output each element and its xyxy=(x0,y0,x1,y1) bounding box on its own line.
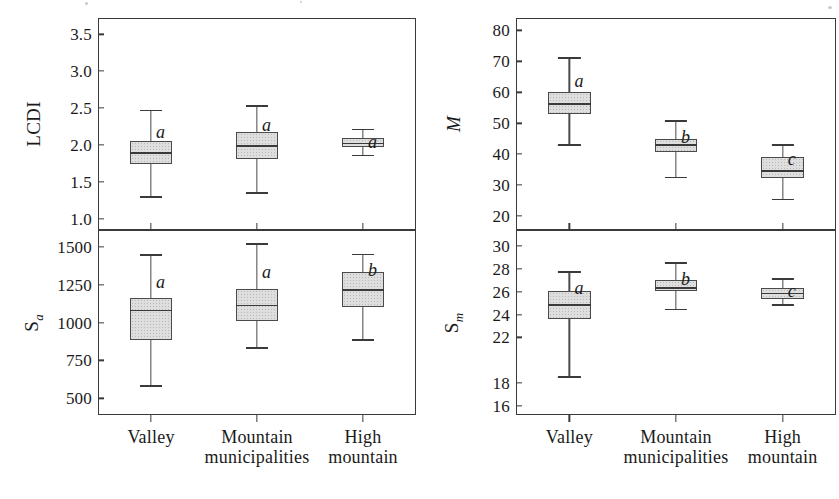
y-tick-mark-sm-4 xyxy=(516,337,522,338)
cap-lower-sa-0 xyxy=(140,385,162,387)
cap-upper-sm-1 xyxy=(665,262,687,264)
significance-letter-sa-0: a xyxy=(156,273,165,291)
x-axis-label-sa-2: Highmountain xyxy=(328,427,398,467)
panel-sa: Sa 150012501000750500aabValleyMountainmu… xyxy=(0,0,420,499)
panel-sm: Sm 30282624221816abcValleyMountainmunici… xyxy=(420,0,839,499)
axis-label-sa-main: S xyxy=(21,320,42,331)
median-line-sa-1 xyxy=(236,305,278,307)
y-tick-label-sm-5: 18 xyxy=(493,375,510,392)
x-axis-label-sm-2: Highmountain xyxy=(748,427,818,467)
whisker-lower-sa-2 xyxy=(362,307,363,339)
median-line-sm-2 xyxy=(761,293,804,295)
y-tick-label-sm-3: 24 xyxy=(493,306,510,323)
boxplot-sm-2: c xyxy=(761,0,804,499)
x-axis-label-line1-sm-0: Valley xyxy=(546,427,593,447)
x-axis-label-line1-sa-0: Valley xyxy=(127,427,174,447)
axis-label-sm-main: S xyxy=(441,322,462,333)
y-tick-mark-sa-3 xyxy=(98,360,104,361)
cap-upper-sa-0 xyxy=(140,254,162,256)
box-iqr-sa-0 xyxy=(130,298,172,340)
x-tick-mark-sa-1 xyxy=(256,415,257,422)
x-axis-label-line1-sm-1: Mountain xyxy=(624,427,729,447)
median-line-sa-2 xyxy=(342,289,384,291)
y-tick-label-sa-2: 1000 xyxy=(57,314,92,331)
y-tick-label-sm-1: 28 xyxy=(493,260,510,277)
median-line-sa-0 xyxy=(130,310,172,312)
x-axis-label-line1-sa-2: High xyxy=(328,427,398,447)
y-tick-mark-sm-3 xyxy=(516,314,522,315)
axis-label-sm: Sm xyxy=(441,312,467,332)
x-axis-label-line2-sm-2: mountain xyxy=(748,447,818,467)
x-tick-mark-sa-0 xyxy=(150,415,151,422)
cap-upper-sm-2 xyxy=(772,278,794,280)
whisker-upper-sm-0 xyxy=(569,271,570,290)
x-axis-label-line2-sa-1: municipalities xyxy=(205,447,310,467)
x-tick-mark-sm-1 xyxy=(675,415,676,422)
cap-lower-sm-1 xyxy=(665,309,687,311)
y-tick-label-sa-0: 1500 xyxy=(57,238,92,255)
left-column: LCDI 3.53.02.52.01.51.0aaa Sa 1500125010… xyxy=(0,0,420,499)
scan-artifact-1 xyxy=(828,6,832,9)
x-axis-label-sa-1: Mountainmunicipalities xyxy=(205,427,310,467)
x-tick-mark-sm-0 xyxy=(569,415,570,422)
whisker-upper-sa-0 xyxy=(150,254,151,298)
cap-upper-sa-1 xyxy=(246,243,268,245)
whisker-lower-sm-0 xyxy=(569,319,570,376)
boxplot-sm-1: b xyxy=(655,0,698,499)
y-tick-mark-sm-0 xyxy=(516,245,522,246)
x-tick-mark-sm-2 xyxy=(782,415,783,422)
axis-label-sm-sub: m xyxy=(451,312,466,321)
x-axis-label-sm-1: Mountainmunicipalities xyxy=(624,427,729,467)
boxplot-sa-0: a xyxy=(130,0,172,499)
box-iqr-sm-1 xyxy=(655,280,698,290)
y-tick-label-sm-6: 16 xyxy=(493,397,510,414)
y-tick-label-sm-0: 30 xyxy=(493,237,510,254)
y-tick-label-sm-4: 22 xyxy=(493,329,510,346)
y-tick-label-sa-4: 500 xyxy=(66,390,92,407)
y-tick-mark-sm-5 xyxy=(516,382,522,383)
median-line-sm-1 xyxy=(655,287,698,289)
x-axis-label-line2-sa-2: mountain xyxy=(328,447,398,467)
axis-label-sa: Sa xyxy=(21,314,47,331)
y-tick-mark-sa-1 xyxy=(98,284,104,285)
x-axis-label-sa-0: Valley xyxy=(127,427,174,447)
boxplot-sm-0: a xyxy=(548,0,591,499)
right-column: M 80706050403020abc Sm 30282624221816abc… xyxy=(420,0,839,499)
boxplot-figure: LCDI 3.53.02.52.01.51.0aaa Sa 1500125010… xyxy=(0,0,839,499)
y-tick-mark-sm-1 xyxy=(516,268,522,269)
y-tick-label-sm-2: 26 xyxy=(493,283,510,300)
significance-letter-sm-1: b xyxy=(681,270,690,288)
y-tick-mark-sa-2 xyxy=(98,322,104,323)
boxplot-sa-1: a xyxy=(236,0,278,499)
y-tick-mark-sm-6 xyxy=(516,405,522,406)
whisker-lower-sa-1 xyxy=(256,321,257,348)
significance-letter-sa-1: a xyxy=(262,263,271,281)
scan-artifact-2 xyxy=(300,1,302,3)
x-tick-mark-sa-2 xyxy=(362,415,363,422)
cap-upper-sm-0 xyxy=(558,271,580,273)
scan-artifact-0 xyxy=(85,2,88,5)
x-axis-label-line1-sm-2: High xyxy=(748,427,818,447)
whisker-lower-sa-0 xyxy=(150,340,151,385)
x-axis-label-sm-0: Valley xyxy=(546,427,593,447)
whisker-upper-sa-2 xyxy=(362,254,363,273)
whisker-upper-sa-1 xyxy=(256,243,257,289)
significance-letter-sm-0: a xyxy=(574,279,583,297)
y-tick-label-sa-1: 1250 xyxy=(57,276,92,293)
cap-upper-sa-2 xyxy=(352,254,374,256)
y-tick-label-sa-3: 750 xyxy=(66,352,92,369)
x-axis-label-line2-sm-1: municipalities xyxy=(624,447,729,467)
whisker-lower-sm-1 xyxy=(675,291,676,309)
y-tick-mark-sa-0 xyxy=(98,246,104,247)
median-line-sm-0 xyxy=(548,304,591,306)
axis-label-sa-sub: a xyxy=(31,314,46,321)
y-tick-mark-sa-4 xyxy=(98,398,104,399)
cap-lower-sa-1 xyxy=(246,347,268,349)
cap-lower-sm-0 xyxy=(558,376,580,378)
cap-lower-sm-2 xyxy=(772,304,794,306)
significance-letter-sm-2: c xyxy=(788,282,796,300)
whisker-upper-sm-1 xyxy=(675,262,676,280)
y-tick-mark-sm-2 xyxy=(516,291,522,292)
cap-lower-sa-2 xyxy=(352,339,374,341)
x-axis-label-line1-sa-1: Mountain xyxy=(205,427,310,447)
